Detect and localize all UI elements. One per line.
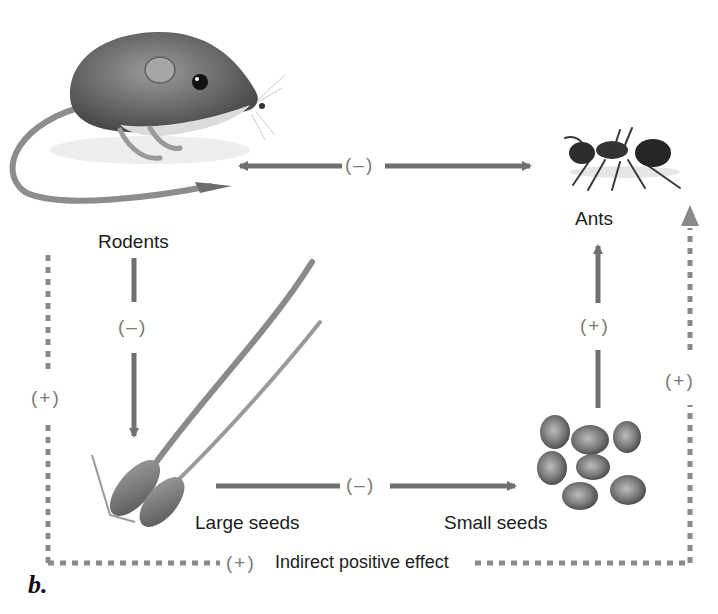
sign-indirect-left: (+): [31, 387, 61, 409]
rodents-label: Rodents: [98, 231, 169, 253]
large-seeds-illustration: [92, 262, 320, 535]
sign-indirect-bottom: (+): [226, 552, 256, 574]
sign-indirect-right: (+): [665, 370, 695, 392]
rodent-illustration: [13, 32, 285, 201]
sign-small-seeds-ants: (+): [580, 315, 610, 337]
panel-label: b.: [28, 570, 48, 600]
sign-large-small-seeds: (–): [346, 474, 375, 496]
small-seeds-illustration: [537, 415, 646, 510]
dashed-arrowhead: [681, 205, 699, 226]
indirect-effect-label: Indirect positive effect: [275, 552, 449, 573]
large-seeds-label: Large seeds: [195, 512, 300, 534]
sign-rodents-large-seeds: (–): [118, 316, 147, 338]
sign-rodents-ants: (–): [345, 154, 374, 176]
species-interaction-diagram: [0, 0, 718, 614]
small-seeds-label: Small seeds: [444, 512, 548, 534]
ant-illustration: [565, 128, 680, 190]
ants-label: Ants: [575, 208, 613, 230]
